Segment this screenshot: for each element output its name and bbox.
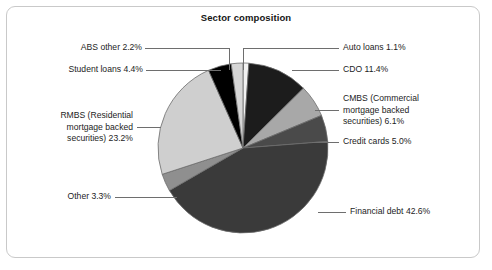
label-student-loans: Student loans 4.4% xyxy=(28,64,143,76)
chart-screenshot: Sector composition ABS other 2.2% Studen… xyxy=(0,0,492,270)
label-credit-cards: Credit cards 5.0% xyxy=(343,136,473,148)
label-abs-other: ABS other 2.2% xyxy=(40,42,142,54)
label-rmbs: RMBS (Residential mortgage backed securi… xyxy=(26,110,133,145)
leader-line-abs-other xyxy=(145,48,230,49)
leader-line-cmbs xyxy=(315,110,339,111)
leader-line-credit-cards xyxy=(312,142,339,143)
label-financial-debt: Financial debt 42.6% xyxy=(350,206,480,218)
leader-line-auto-loans-vert xyxy=(243,48,244,70)
label-other: Other 3.3% xyxy=(38,191,111,203)
leader-line-student-loans xyxy=(146,70,221,71)
leader-line-rmbs xyxy=(137,127,161,128)
label-cmbs: CMBS (Commercial mortgage backed securit… xyxy=(343,93,463,128)
label-auto-loans: Auto loans 1.1% xyxy=(343,42,473,54)
leader-line-other xyxy=(115,197,177,198)
pie-slices xyxy=(158,63,328,233)
leader-line-abs-other-vert xyxy=(229,48,230,70)
leader-line-cdo xyxy=(292,70,339,71)
leader-line-financial-debt xyxy=(318,212,346,213)
label-cdo: CDO 11.4% xyxy=(343,64,473,76)
leader-line-auto-loans xyxy=(243,48,339,49)
